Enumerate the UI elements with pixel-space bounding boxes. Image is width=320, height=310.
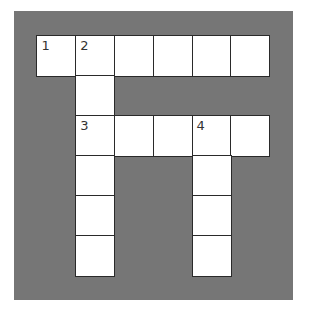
crossword-cell[interactable]: 1 bbox=[36, 35, 76, 76]
clue-number: 3 bbox=[80, 119, 88, 132]
crossword-cell[interactable] bbox=[192, 195, 232, 236]
crossword-cell[interactable] bbox=[75, 235, 115, 276]
crossword-cell[interactable]: 2 bbox=[75, 35, 115, 76]
crossword-cell[interactable] bbox=[153, 115, 193, 156]
clue-number: 2 bbox=[80, 39, 88, 52]
crossword-cell[interactable] bbox=[75, 155, 115, 196]
crossword-cell[interactable] bbox=[75, 195, 115, 236]
clue-number: 4 bbox=[197, 119, 205, 132]
crossword-cell[interactable] bbox=[75, 75, 115, 116]
crossword-cell[interactable] bbox=[192, 35, 232, 76]
crossword-cell[interactable] bbox=[230, 115, 270, 156]
crossword-cell[interactable] bbox=[114, 35, 154, 76]
crossword-cell[interactable] bbox=[114, 115, 154, 156]
crossword-cell[interactable]: 4 bbox=[192, 115, 232, 156]
crossword-cell[interactable] bbox=[230, 35, 270, 76]
clue-number: 1 bbox=[41, 39, 49, 52]
crossword-cell[interactable]: 3 bbox=[75, 115, 115, 156]
crossword-cell[interactable] bbox=[192, 235, 232, 276]
crossword-cell[interactable] bbox=[153, 35, 193, 76]
crossword-cell[interactable] bbox=[192, 155, 232, 196]
